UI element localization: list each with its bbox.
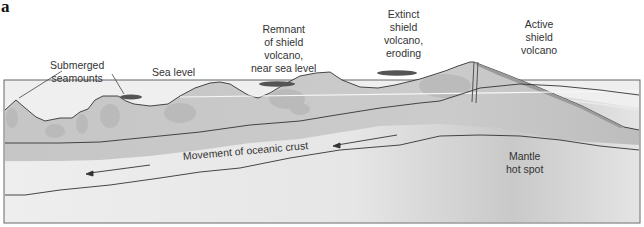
label-submerged-seamounts: Submerged seamounts: [50, 59, 104, 85]
seamount-cap: [120, 95, 142, 100]
extinct-cap: [377, 70, 417, 76]
label-line: near sea level: [251, 62, 316, 75]
label-line: Remnant: [251, 23, 316, 36]
label-line: Submerged: [50, 59, 104, 72]
label-line: volcano,: [384, 34, 423, 47]
label-line: seamounts: [50, 72, 104, 85]
label-line: Sea level: [152, 66, 195, 78]
remnant-cap: [259, 81, 295, 87]
label-line: hot spot: [506, 163, 543, 176]
label-line: Mantle: [506, 150, 543, 163]
label-line: Active: [521, 18, 557, 31]
label-line: Extinct: [384, 8, 423, 21]
label-line: volcano: [521, 44, 557, 57]
label-sea-level: Sea level: [152, 66, 195, 79]
label-line: of shield: [251, 36, 316, 49]
label-active: Active shield volcano: [521, 18, 557, 57]
label-remnant: Remnant of shield volcano, near sea leve…: [251, 23, 316, 75]
label-line: shield: [521, 31, 557, 44]
label-line: eroding: [384, 47, 423, 60]
label-line: volcano,: [251, 49, 316, 62]
label-extinct: Extinct shield volcano, eroding: [384, 8, 423, 60]
label-line: shield: [384, 21, 423, 34]
label-mantle-hot-spot: Mantle hot spot: [506, 150, 543, 176]
